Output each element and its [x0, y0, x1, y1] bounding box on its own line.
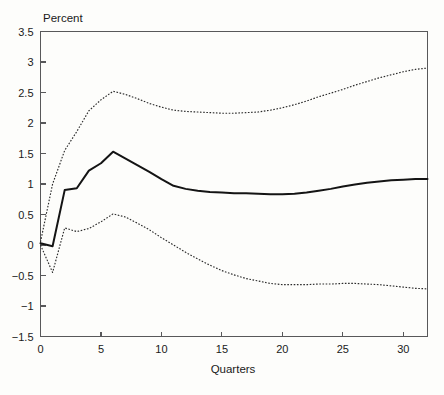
figure-caption — [12, 387, 432, 395]
y-tick-label: 2 — [27, 117, 33, 129]
x-tick-label: 20 — [276, 343, 288, 355]
x-tick-label: 0 — [37, 343, 43, 355]
x-tick-label: 10 — [155, 343, 167, 355]
x-axis: 051015202530 — [37, 332, 409, 355]
figure-container: −1.5−1−0.500.511.522.533.5 051015202530 … — [0, 0, 444, 395]
y-axis-title: Percent — [43, 12, 83, 24]
x-tick-label: 5 — [98, 343, 104, 355]
y-tick-label: 3.5 — [18, 26, 33, 38]
y-tick-label: 2.5 — [18, 87, 33, 99]
x-tick-label: 25 — [337, 343, 349, 355]
series-line-dotted — [41, 214, 428, 289]
x-tick-label: 15 — [216, 343, 228, 355]
x-axis-title: Quarters — [211, 363, 256, 375]
plot-frame-path — [41, 32, 428, 337]
y-tick-label: 1.5 — [18, 148, 33, 160]
series-line-dotted — [41, 68, 428, 242]
x-tick-label: 30 — [397, 343, 409, 355]
plot-frame — [41, 32, 428, 337]
y-tick-label: 0.5 — [18, 209, 33, 221]
impulse-response-chart: −1.5−1−0.500.511.522.533.5 051015202530 … — [0, 0, 444, 395]
data-series-group — [41, 68, 428, 289]
y-tick-label: −1.5 — [12, 331, 34, 343]
y-tick-label: 3 — [27, 56, 33, 68]
y-tick-label: 1 — [27, 178, 33, 190]
y-tick-label: 0 — [27, 239, 33, 251]
y-tick-label: −1 — [21, 300, 34, 312]
y-tick-label: −0.5 — [12, 270, 34, 282]
series-line-solid — [41, 152, 428, 247]
